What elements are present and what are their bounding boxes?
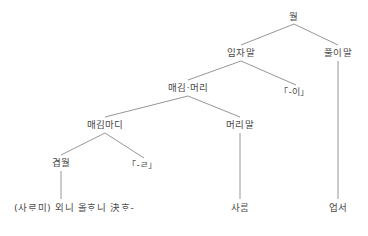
tree-node-modhead: 매김·머리 xyxy=(168,83,208,94)
tree-node-part-i: 「-이」 xyxy=(279,87,308,97)
tree-node-modclause: 매김마디 xyxy=(87,120,124,131)
tree-edge-root-subject xyxy=(241,24,294,45)
tree-edge-subject-parti xyxy=(241,61,296,85)
tree-edge-modclause-partl xyxy=(105,133,144,158)
tree-node-part-l: 「-ㄹ」 xyxy=(127,160,156,170)
tree-edge-modclause-complex xyxy=(61,133,105,155)
tree-node-subject: 임자말 xyxy=(227,48,255,59)
tree-node-predicate: 풀이말 xyxy=(324,48,352,59)
tree-edge-root-predicate xyxy=(294,24,338,45)
syntax-tree-diagram: 월임자말풀이말매김·머리「-이」매김마디머리말겹월「-ㄹ」사ᄅᆞᆷ업서(사ᄅᆞ미… xyxy=(0,0,368,236)
tree-node-saram: 사ᄅᆞᆷ xyxy=(231,203,249,214)
tree-node-complexsent: 겹월 xyxy=(52,158,70,169)
tree-edge-subject-modhead xyxy=(188,61,241,80)
tree-edge-modhead-modclause xyxy=(105,96,188,117)
tree-node-headword: 머리말 xyxy=(226,120,254,131)
tree-edge-modhead-headword xyxy=(188,96,240,117)
tree-node-bottom-string: (사ᄅᆞ미) 외니 올ᄒᆞ니 決ᄒᆞ- xyxy=(14,203,135,214)
tree-node-eopseo: 업서 xyxy=(329,203,347,214)
tree-node-root: 월 xyxy=(289,12,298,23)
